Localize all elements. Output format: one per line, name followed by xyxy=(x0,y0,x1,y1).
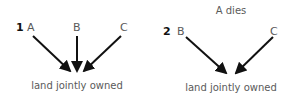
arrow-b-to-land-2 xyxy=(186,37,226,73)
panel-2-arrows xyxy=(186,37,273,73)
arrow-c-to-land-2 xyxy=(236,37,273,73)
node-a: A xyxy=(27,22,35,34)
panel-caption: A dies xyxy=(216,5,247,17)
node-c: C xyxy=(270,26,278,38)
target-label: land jointly owned xyxy=(185,82,277,94)
panel-1-arrows xyxy=(33,36,121,71)
panel-number: 1 xyxy=(16,22,24,34)
node-b: B xyxy=(73,22,81,34)
node-b: B xyxy=(177,26,185,38)
target-label: land jointly owned xyxy=(31,80,123,92)
arrow-c-to-land xyxy=(84,36,121,71)
panel-number: 2 xyxy=(163,26,171,38)
arrow-a-to-land xyxy=(33,36,70,71)
node-c: C xyxy=(120,22,128,34)
